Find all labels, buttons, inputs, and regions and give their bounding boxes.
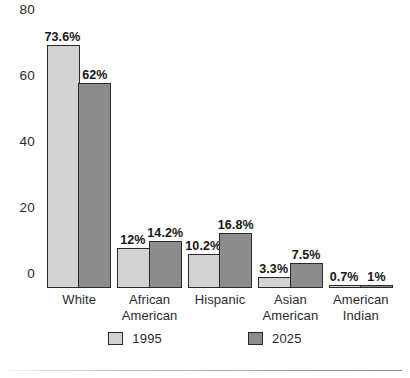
legend-swatch-icon	[108, 332, 123, 345]
legend-label: 2025	[272, 331, 302, 346]
bar-value-label: 3.3%	[259, 262, 288, 276]
bar-2025[interactable]: 1%	[360, 285, 393, 288]
plot-area: 020406080 73.6%62%12%14.2%10.2%16.8%3.3%…	[44, 24, 396, 288]
bar-2025[interactable]: 62%	[78, 83, 111, 288]
bar-group: 3.3%7.5%	[257, 24, 323, 288]
bar-value-label: 16.8%	[218, 218, 254, 232]
bar-2025[interactable]: 14.2%	[149, 241, 182, 288]
bar-pair: 3.3%7.5%	[257, 24, 323, 288]
bar-1995[interactable]: 3.3%	[258, 277, 291, 288]
x-axis-category-label: American Indian	[311, 292, 410, 323]
bar-value-label: 1%	[367, 270, 385, 284]
bar-value-label: 14.2%	[147, 226, 183, 240]
legend-swatch-icon	[248, 332, 263, 345]
y-axis-tick-0: 0	[27, 266, 35, 281]
bar-1995[interactable]: 0.7%	[329, 285, 362, 288]
bar-pair: 73.6%62%	[46, 24, 112, 288]
bar-value-label: 10.2%	[185, 239, 221, 253]
legend-label: 1995	[132, 331, 162, 346]
bar-1995[interactable]: 12%	[117, 248, 150, 288]
chart-legend: 19952025	[0, 331, 410, 346]
legend-item-2025[interactable]: 2025	[248, 331, 302, 346]
bar-value-label: 0.7%	[330, 270, 359, 284]
y-axis-tick-40: 40	[20, 134, 35, 149]
bar-2025[interactable]: 16.8%	[219, 233, 252, 288]
bar-1995[interactable]: 73.6%	[47, 45, 80, 288]
bar-group: 0.7%1%	[328, 24, 394, 288]
bar-value-label: 62%	[82, 68, 107, 82]
bar-pair: 0.7%1%	[328, 24, 394, 288]
bar-chart: 020406080 73.6%62%12%14.2%10.2%16.8%3.3%…	[0, 0, 410, 378]
bar-group: 73.6%62%	[46, 24, 112, 288]
bar-value-label: 12%	[120, 233, 145, 247]
bar-2025[interactable]: 7.5%	[290, 263, 323, 288]
bar-value-label: 7.5%	[292, 248, 321, 262]
bar-group: 10.2%16.8%	[187, 24, 253, 288]
y-axis-tick-80: 80	[20, 2, 35, 17]
bar-value-label: 73.6%	[45, 30, 81, 44]
bar-pair: 10.2%16.8%	[187, 24, 253, 288]
bar-1995[interactable]: 10.2%	[188, 254, 221, 288]
bottom-divider	[8, 370, 402, 371]
y-axis-tick-20: 20	[20, 200, 35, 215]
bar-pair: 12%14.2%	[117, 24, 183, 288]
y-axis-tick-60: 60	[20, 68, 35, 83]
bar-group: 12%14.2%	[117, 24, 183, 288]
legend-item-1995[interactable]: 1995	[108, 331, 162, 346]
